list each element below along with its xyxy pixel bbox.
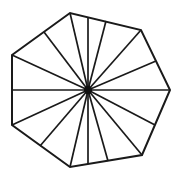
figure-canvas: Irregular polygon subdivided into triang…	[0, 0, 180, 180]
radial-polygon-diagram: Irregular polygon subdivided into triang…	[0, 0, 180, 180]
center-hub-dot	[84, 86, 92, 94]
